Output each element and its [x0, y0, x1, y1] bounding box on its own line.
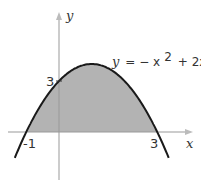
parabola-figure: -1 3 3 x y y = − x 2 + 2x + 3 [0, 0, 201, 185]
x-axis-label: x [186, 136, 194, 151]
equation-label: y = − x 2 + 2x + 3 [111, 47, 201, 69]
x-tick-label: 3 [150, 136, 158, 151]
y-tick-label: 3 [46, 74, 54, 89]
y-axis-arrow-icon [56, 12, 62, 20]
x-axis-arrow-icon [185, 129, 193, 135]
chart-canvas: -1 3 3 x y y = − x 2 + 2x + 3 [0, 0, 201, 185]
y-axis-label: y [65, 8, 74, 23]
x-tick-label: -1 [23, 136, 36, 151]
